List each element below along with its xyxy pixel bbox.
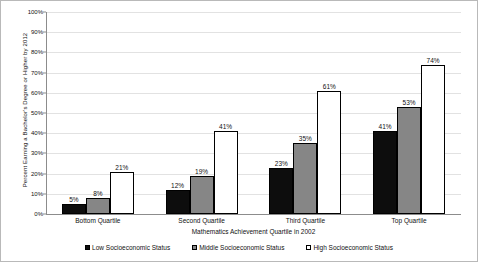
x-axis-category-labels: Bottom QuartileSecond QuartileThird Quar…: [46, 217, 461, 224]
bar-slot: 74%: [421, 12, 445, 214]
y-tick-label: 70%: [31, 70, 43, 76]
gridline: [46, 214, 461, 215]
bar-value-label: 23%: [275, 160, 288, 167]
y-tick-label: 20%: [31, 171, 43, 177]
bar[interactable]: [190, 176, 214, 214]
bar[interactable]: [421, 65, 445, 214]
legend-item[interactable]: High Socioeconomic Status: [306, 244, 393, 251]
plot-area: 0%10%20%30%40%50%60%70%80%90%100% 5%8%21…: [46, 12, 461, 214]
bar-slot: 8%: [86, 12, 110, 214]
x-axis-category-label: Top Quartile: [357, 217, 461, 224]
bar[interactable]: [397, 107, 421, 214]
bar-groups: 5%8%21%12%19%41%23%35%61%41%53%74%: [46, 12, 461, 214]
legend-item[interactable]: Middle Socioeconomic Status: [192, 244, 284, 251]
bar-value-label: 5%: [69, 196, 78, 203]
y-tick-label: 10%: [31, 191, 43, 197]
bar-value-label: 41%: [379, 123, 392, 130]
bar[interactable]: [214, 131, 238, 214]
bar-group: 41%53%74%: [357, 12, 461, 214]
legend-swatch-icon: [192, 245, 197, 250]
y-tick-label: 30%: [31, 150, 43, 156]
legend-label: Middle Socioeconomic Status: [199, 244, 284, 251]
bar-slot: 41%: [373, 12, 397, 214]
y-axis-title: Percent Earning a Bachelor's Degree or H…: [22, 12, 28, 208]
bar-value-label: 19%: [195, 168, 208, 175]
bar-group: 12%19%41%: [150, 12, 254, 214]
bar-slot: 12%: [166, 12, 190, 214]
bar[interactable]: [62, 204, 86, 214]
legend-label: High Socioeconomic Status: [313, 244, 393, 251]
legend-label: Low Socioeconomic Status: [92, 244, 170, 251]
bar-value-label: 41%: [219, 123, 232, 130]
bar-value-label: 21%: [115, 164, 128, 171]
y-tick-label: 100%: [28, 9, 43, 15]
legend-item[interactable]: Low Socioeconomic Status: [85, 244, 170, 251]
bar[interactable]: [166, 190, 190, 214]
bar-slot: 23%: [269, 12, 293, 214]
bar[interactable]: [373, 131, 397, 214]
bar-slot: 41%: [214, 12, 238, 214]
bar-value-label: 8%: [93, 190, 102, 197]
bar[interactable]: [110, 172, 134, 214]
bar-chart-figure: Percent Earning a Bachelor's Degree or H…: [0, 0, 478, 262]
y-tick-label: 90%: [31, 29, 43, 35]
bar-value-label: 35%: [299, 135, 312, 142]
bar[interactable]: [293, 143, 317, 214]
bar-slot: 21%: [110, 12, 134, 214]
bar-group: 23%35%61%: [254, 12, 358, 214]
x-axis-title: Mathematics Achievement Quartile in 2002: [46, 228, 461, 235]
bar-value-label: 61%: [323, 83, 336, 90]
bar[interactable]: [317, 91, 341, 214]
legend-swatch-icon: [85, 245, 90, 250]
bar-slot: 19%: [190, 12, 214, 214]
x-axis-category-label: Second Quartile: [150, 217, 254, 224]
y-tick-label: 80%: [31, 49, 43, 55]
bar-slot: 5%: [62, 12, 86, 214]
x-axis-category-label: Third Quartile: [254, 217, 358, 224]
y-tick-label: 40%: [31, 130, 43, 136]
bar-value-label: 74%: [427, 57, 440, 64]
chart-legend: Low Socioeconomic StatusMiddle Socioecon…: [1, 244, 477, 251]
bar-value-label: 53%: [403, 99, 416, 106]
bar[interactable]: [269, 168, 293, 214]
bar-slot: 61%: [317, 12, 341, 214]
y-tick-label: 50%: [31, 110, 43, 116]
bar-slot: 35%: [293, 12, 317, 214]
bar-group: 5%8%21%: [46, 12, 150, 214]
bar-value-label: 12%: [171, 182, 184, 189]
y-tick-label: 60%: [31, 90, 43, 96]
x-axis-category-label: Bottom Quartile: [46, 217, 150, 224]
bar[interactable]: [86, 198, 110, 214]
bar-slot: 53%: [397, 12, 421, 214]
legend-swatch-icon: [306, 245, 311, 250]
y-tick-label: 0%: [34, 211, 43, 217]
